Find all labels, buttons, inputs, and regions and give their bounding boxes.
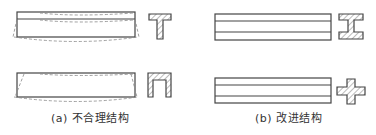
cross-section-icon [337,79,365,104]
t-section-icon [149,14,171,39]
panel-a-bottom-beam [14,73,138,102]
panel-b-top-beam [215,14,331,40]
caption-b-improved-structure: (b) 改进结构 [255,109,322,125]
i-section-icon [339,14,363,39]
caption-a-unreasonable-structure: (a) 不合理结构 [51,109,129,125]
panel-a-top-beam [13,12,139,42]
channel-section-icon [148,73,171,97]
panel-b-bottom-beam [215,78,331,103]
